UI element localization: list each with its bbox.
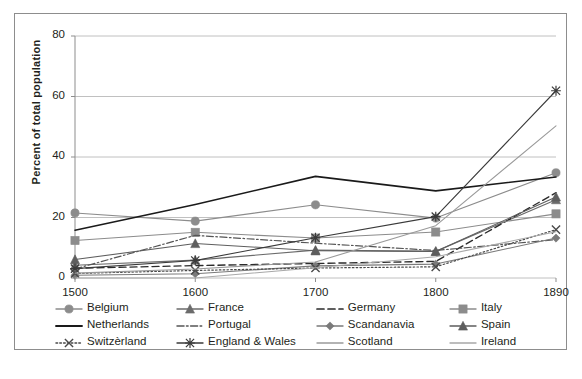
- legend-label: Belgium: [87, 301, 129, 313]
- legend-key-icon: [316, 301, 344, 313]
- x-tick-label: 1800: [406, 286, 466, 298]
- x-tick-label: 1600: [165, 286, 225, 298]
- legend-key-icon: [316, 335, 344, 347]
- x-tick-label: 1890: [526, 286, 582, 298]
- legend-key-icon: [176, 335, 204, 347]
- y-tick-label: 0: [31, 270, 65, 282]
- legend-item-spain[interactable]: Spain: [431, 318, 566, 330]
- legend-key-icon: [449, 318, 477, 330]
- legend-item-scotland[interactable]: Scotland: [296, 335, 431, 347]
- legend-key-icon: [55, 301, 83, 313]
- legend-item-portugal[interactable]: Portugal: [150, 318, 296, 330]
- legend-key-icon: [449, 301, 477, 313]
- legend-key-icon: [176, 318, 204, 330]
- y-tick-label: 60: [31, 89, 65, 101]
- legend-label: Switzèrland: [87, 335, 146, 347]
- legend-label: France: [208, 301, 244, 313]
- legend-item-france[interactable]: France: [150, 301, 296, 313]
- legend-item-switz-rland[interactable]: Switzèrland: [15, 335, 150, 347]
- legend-key-icon: [55, 335, 83, 347]
- legend-label: Scandanavia: [348, 318, 415, 330]
- chart-figure: Percent of total population 020406080 15…: [0, 0, 582, 379]
- legend-label: Scotland: [348, 335, 393, 347]
- chart-legend: BelgiumFranceGermanyItalyNetherlandsPort…: [15, 299, 566, 349]
- x-tick-label: 1700: [286, 286, 346, 298]
- legend-item-germany[interactable]: Germany: [296, 301, 431, 313]
- legend-item-scandanavia[interactable]: Scandanavia: [296, 318, 431, 330]
- legend-key-icon: [176, 301, 204, 313]
- legend-label: Netherlands: [87, 318, 149, 330]
- legend-label: Spain: [481, 318, 510, 330]
- y-tick-label: 20: [31, 210, 65, 222]
- legend-key-icon: [55, 318, 83, 330]
- legend-label: Portugal: [208, 318, 251, 330]
- legend-label: Italy: [481, 301, 502, 313]
- legend-key-icon: [316, 318, 344, 330]
- legend-label: England & Wales: [208, 335, 296, 347]
- y-axis-title: Percent of total population: [30, 12, 42, 212]
- legend-item-belgium[interactable]: Belgium: [15, 301, 150, 313]
- x-tick-label: 1500: [45, 286, 105, 298]
- legend-item-italy[interactable]: Italy: [431, 301, 566, 313]
- legend-label: Germany: [348, 301, 395, 313]
- legend-key-icon: [449, 335, 477, 347]
- legend-item-ireland[interactable]: Ireland: [431, 335, 566, 347]
- y-tick-label: 40: [31, 149, 65, 161]
- y-tick-label: 80: [31, 28, 65, 40]
- legend-item-netherlands[interactable]: Netherlands: [15, 318, 150, 330]
- legend-item-england-wales[interactable]: England & Wales: [150, 335, 296, 347]
- legend-label: Ireland: [481, 335, 516, 347]
